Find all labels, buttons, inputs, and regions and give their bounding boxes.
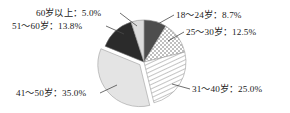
pie-label-41-50: 41～50岁：35.0%	[16, 88, 86, 98]
pie-label-51-60: 51～60岁：13.8%	[12, 21, 82, 31]
pie-slices	[98, 20, 186, 107]
pie-label-60-plus: 60岁以上：5.0%	[36, 8, 101, 18]
leader-line-18-24	[156, 15, 174, 25]
pie-label-25-30: 25～30岁：12.5%	[186, 27, 256, 37]
pie-chart-figure: 60岁以上：5.0% 51～60岁：13.8% 41～50岁：35.0% 18～…	[0, 0, 290, 113]
pie-label-31-40: 31～40岁：25.0%	[192, 84, 262, 94]
pie-label-18-24: 18～24岁：8.7%	[176, 10, 242, 20]
